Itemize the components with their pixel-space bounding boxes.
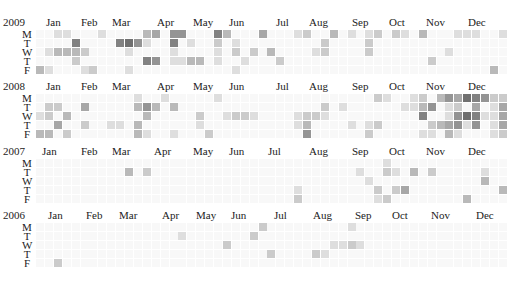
heatmap-cell xyxy=(232,232,240,240)
heatmap-cell xyxy=(410,94,418,102)
month-label: May xyxy=(193,16,213,28)
heatmap-cell xyxy=(134,223,142,231)
heatmap-cell xyxy=(294,112,302,120)
heatmap-cell xyxy=(241,112,249,120)
heatmap-cell xyxy=(134,250,142,258)
heatmap-cell xyxy=(348,168,356,176)
heatmap-cell xyxy=(134,159,142,167)
heatmap-cell xyxy=(196,30,204,38)
heatmap-cell xyxy=(428,186,436,194)
heatmap-cell xyxy=(454,223,462,231)
heatmap-cell xyxy=(472,250,480,258)
heatmap-cell xyxy=(54,48,62,56)
heatmap-cell xyxy=(410,66,418,74)
heatmap-cell xyxy=(419,94,427,102)
heatmap-cell xyxy=(392,259,400,267)
heatmap-cell xyxy=(72,250,80,258)
heatmap-cell xyxy=(374,259,382,267)
month-label: Mar xyxy=(119,209,137,221)
heatmap-cell xyxy=(187,159,195,167)
heatmap-cell xyxy=(45,177,53,185)
heatmap-cell xyxy=(294,30,302,38)
heatmap-cell xyxy=(116,48,124,56)
heatmap-cell xyxy=(348,30,356,38)
heatmap-cell xyxy=(63,30,71,38)
heatmap-cell xyxy=(312,66,320,74)
heatmap-cell xyxy=(259,112,267,120)
heatmap-cell xyxy=(161,39,169,47)
heatmap-cell xyxy=(89,168,97,176)
heatmap-cell xyxy=(81,94,89,102)
heatmap-cell xyxy=(250,112,258,120)
heatmap-cell xyxy=(259,195,267,203)
heatmap-cell xyxy=(267,130,275,138)
heatmap-cell xyxy=(214,223,222,231)
heatmap-cell xyxy=(232,250,240,258)
heatmap-cell xyxy=(472,39,480,47)
heatmap-cell xyxy=(63,94,71,102)
heatmap-cell xyxy=(152,94,160,102)
heatmap-cell xyxy=(437,250,445,258)
month-label: Jun xyxy=(231,209,246,221)
heatmap-cell xyxy=(383,223,391,231)
heatmap-cell xyxy=(134,168,142,176)
heatmap-cell xyxy=(294,259,302,267)
heatmap-cell xyxy=(223,241,231,249)
heatmap-cell xyxy=(54,186,62,194)
heatmap-cell xyxy=(312,159,320,167)
heatmap-cell xyxy=(152,241,160,249)
heatmap-cell xyxy=(356,195,364,203)
heatmap-cell xyxy=(321,223,329,231)
heatmap-cell xyxy=(437,48,445,56)
heatmap-cell xyxy=(116,177,124,185)
heatmap-cell xyxy=(294,94,302,102)
heatmap-cell xyxy=(410,186,418,194)
heatmap-cell xyxy=(54,112,62,120)
heatmap-cell xyxy=(54,94,62,102)
heatmap-cell xyxy=(481,57,489,65)
heatmap-cell xyxy=(454,186,462,194)
heatmap-cell xyxy=(98,103,106,111)
heatmap-cell xyxy=(472,121,480,129)
heatmap-cell xyxy=(107,48,115,56)
heatmap-cell xyxy=(45,250,53,258)
heatmap-cell xyxy=(45,66,53,74)
heatmap-cell xyxy=(321,66,329,74)
heatmap-cell xyxy=(241,168,249,176)
heatmap-cell xyxy=(383,195,391,203)
heatmap-cell xyxy=(36,48,44,56)
heatmap-cell xyxy=(303,94,311,102)
heatmap-cell xyxy=(125,250,133,258)
heatmap-cell xyxy=(116,186,124,194)
heatmap-cell xyxy=(499,250,507,258)
heatmap-cell xyxy=(481,94,489,102)
heatmap-cell xyxy=(187,241,195,249)
heatmap-cell xyxy=(392,186,400,194)
heatmap-cell xyxy=(72,177,80,185)
heatmap-cell xyxy=(428,112,436,120)
heatmap-cell xyxy=(161,30,169,38)
heatmap-cell xyxy=(259,94,267,102)
heatmap-grid xyxy=(36,30,511,75)
heatmap-cell xyxy=(294,177,302,185)
heatmap-cell xyxy=(134,103,142,111)
heatmap-cell xyxy=(205,159,213,167)
heatmap-cell xyxy=(250,103,258,111)
heatmap-cell xyxy=(72,159,80,167)
heatmap-cell xyxy=(321,94,329,102)
month-label: Oct xyxy=(389,80,405,92)
heatmap-cell xyxy=(321,103,329,111)
heatmap-cell xyxy=(330,57,338,65)
heatmap-cell xyxy=(339,94,347,102)
heatmap-cell xyxy=(187,57,195,65)
heatmap-cell xyxy=(223,94,231,102)
heatmap-cell xyxy=(321,168,329,176)
heatmap-cell xyxy=(392,130,400,138)
heatmap-cell xyxy=(383,130,391,138)
heatmap-cell xyxy=(276,121,284,129)
month-label: Sep xyxy=(352,145,369,157)
heatmap-cell xyxy=(365,121,373,129)
heatmap-cell xyxy=(98,130,106,138)
heatmap-cell xyxy=(330,250,338,258)
heatmap-cell xyxy=(267,195,275,203)
